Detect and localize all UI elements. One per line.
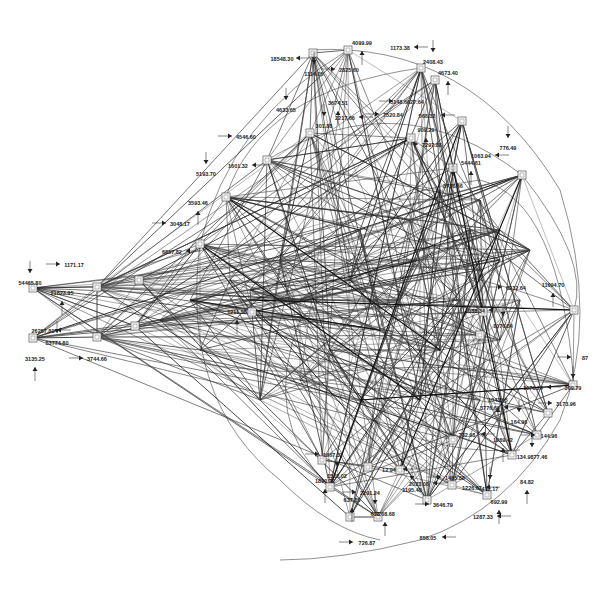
flow-value-label: 7520.84 <box>383 112 404 118</box>
node-box[interactable] <box>131 322 139 330</box>
flow-value-label: 12.94 <box>382 467 397 473</box>
flow-value-label: 472.17 <box>482 486 499 492</box>
flow-value-label: 5148.6627.64 <box>390 99 425 105</box>
node-box[interactable] <box>29 334 37 342</box>
flow-value-label: 134.9877.46 <box>517 454 548 460</box>
arrow-icon <box>28 261 33 273</box>
flow-value-label: 84.82 <box>520 479 534 485</box>
node-box[interactable] <box>570 306 578 314</box>
flow-value-label: 3593.46 <box>188 200 208 206</box>
node-box[interactable] <box>263 156 271 164</box>
node-box[interactable] <box>448 481 456 489</box>
node-box[interactable] <box>449 436 457 444</box>
flow-value-label: 3736.66 <box>443 183 463 189</box>
edge <box>200 340 500 350</box>
edge <box>135 326 350 517</box>
arrow-icon <box>431 40 436 52</box>
flow-value-label: 3135.25 <box>25 356 45 362</box>
flow-value-label: 692.99 <box>491 499 508 505</box>
flow-value-label: 1226.67 <box>462 485 482 491</box>
arrow-icon <box>69 356 83 361</box>
flow-value-label: 1890.72 <box>315 478 335 484</box>
flow-value-label: 21823.95 <box>51 290 74 296</box>
flow-value-label: 4099.99 <box>352 40 372 46</box>
edge <box>33 280 350 288</box>
node-box[interactable] <box>248 308 256 316</box>
edge <box>500 230 574 310</box>
node-box[interactable] <box>508 451 516 459</box>
node-box[interactable] <box>222 193 230 201</box>
node-box[interactable] <box>93 333 101 341</box>
flow-value-label: 6857.82 <box>162 249 182 255</box>
flow-value-label: 3173.96 <box>556 401 576 407</box>
arrow-icon <box>547 385 561 390</box>
flow-value-label: 1211.58 <box>227 309 247 315</box>
node-box[interactable] <box>396 466 404 474</box>
node-box[interactable] <box>93 283 101 291</box>
node-box[interactable] <box>544 409 552 417</box>
arrow-icon <box>342 490 356 495</box>
flow-value-label: 5444.61 <box>461 160 481 166</box>
flow-value-label: 568.32 <box>419 113 436 119</box>
arrow-icon <box>446 81 451 95</box>
flow-value-label: 3646.79 <box>433 502 453 508</box>
arrow-icon <box>525 490 530 504</box>
flow-value-label: 3674.51 <box>328 100 348 106</box>
edge <box>360 68 421 230</box>
arrow-icon <box>46 262 60 267</box>
node-box[interactable] <box>458 117 466 125</box>
flow-value-label: 1088.34 <box>465 308 486 314</box>
edge <box>378 470 400 517</box>
arrow-icon <box>196 211 201 225</box>
arrow-icon <box>538 401 552 406</box>
edge <box>97 337 300 380</box>
node-box[interactable] <box>135 276 143 284</box>
flow-value-label: 1043.65 <box>488 397 508 403</box>
arrow-icon <box>557 355 571 360</box>
flow-value-label: 26257.80 <box>32 328 55 334</box>
node-box[interactable] <box>407 134 415 142</box>
flow-value-label: 4546.60 <box>236 134 256 140</box>
arrow-icon <box>360 51 365 65</box>
arrow-icon <box>284 88 289 100</box>
arrow-icon <box>442 535 456 540</box>
arrow-icon <box>33 367 38 381</box>
edge <box>190 300 487 495</box>
arrow-icon <box>296 56 310 61</box>
edge <box>410 138 411 220</box>
flow-value-label: 1465.88 <box>445 475 465 481</box>
node-box[interactable] <box>344 46 352 54</box>
edge <box>97 337 500 340</box>
flow-value-label: 144.96 <box>541 433 558 439</box>
node-box[interactable] <box>364 463 372 471</box>
edge <box>226 197 360 230</box>
node-box[interactable] <box>326 483 334 491</box>
flow-value-label: 3776.69 <box>480 405 500 411</box>
node-box[interactable] <box>518 171 526 179</box>
arrow-icon <box>571 366 576 378</box>
flow-value-label: 2217.66 <box>335 115 355 121</box>
node-box[interactable] <box>483 491 491 499</box>
node-box[interactable] <box>309 49 317 57</box>
flow-value-label: 301.88 <box>316 123 333 129</box>
flow-value-label: 11694.70 <box>542 282 565 288</box>
flow-value-label: 4673.40 <box>438 70 458 76</box>
node-box[interactable] <box>476 331 484 339</box>
flow-value-label: 1269.42 <box>493 437 513 443</box>
node-box[interactable] <box>196 240 204 248</box>
edge <box>160 320 330 487</box>
arrow-icon <box>441 113 455 118</box>
edge <box>313 50 348 53</box>
arrow-icon <box>60 301 65 315</box>
flow-value-label: 7297.88 <box>422 142 442 148</box>
node-box[interactable] <box>346 513 354 521</box>
node-box[interactable] <box>306 129 314 137</box>
flow-value-label: 53774.80 <box>46 340 69 346</box>
flow-value-label: 1114.05 <box>304 71 323 77</box>
flow-value-label: 1287.33 <box>473 514 493 520</box>
flow-value-label: 1195.40 <box>402 487 422 493</box>
node-box[interactable] <box>417 64 425 72</box>
flow-value-label: 2291.24 <box>360 490 381 496</box>
node-box[interactable] <box>431 76 439 84</box>
flow-value-label: 6232.64 <box>506 285 527 291</box>
